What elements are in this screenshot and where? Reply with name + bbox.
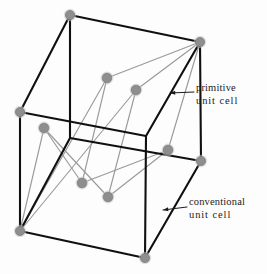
point-back-top-right	[195, 37, 204, 46]
conventional-cell-edge	[20, 231, 145, 258]
primitive-cell-edge	[108, 90, 136, 197]
conventional-label-line1: conventional	[189, 196, 245, 209]
conventional-cell-edge	[20, 138, 70, 231]
primitive-cell-edge	[136, 42, 200, 90]
point-interior-c	[39, 123, 49, 133]
point-front-bottom-left	[15, 226, 24, 235]
point-interior-a	[102, 73, 112, 83]
primitive-cell-edge	[20, 90, 136, 231]
primitive-cell-edge	[108, 150, 168, 197]
point-back-top-left	[65, 10, 74, 19]
point-front-bottom-right	[140, 253, 149, 262]
point-interior-bc	[103, 192, 113, 202]
primitive-cell-edge	[82, 150, 168, 183]
primitive-unit-cell-label: primitive unit cell	[196, 82, 238, 107]
conventional-unit-cell-wireframe	[20, 15, 201, 258]
lattice-diagram	[0, 0, 267, 274]
point-back-bottom-right	[196, 156, 205, 165]
conventional-cell-edge	[70, 15, 200, 42]
primitive-label-line2: unit cell	[196, 95, 238, 108]
point-interior-abc	[163, 145, 173, 155]
primitive-label-line1: primitive	[196, 82, 238, 95]
primitive-cell-edge	[107, 42, 200, 78]
conventional-label-line2: unit cell	[189, 209, 245, 222]
figure-container: primitive unit cell conventional unit ce…	[0, 0, 267, 274]
conventional-unit-cell-arrowhead-icon	[163, 207, 168, 211]
point-interior-b	[131, 85, 141, 95]
conventional-cell-edge	[146, 42, 200, 136]
conventional-cell-edge	[145, 136, 146, 258]
point-interior-ac	[77, 178, 87, 188]
conventional-cell-edge	[20, 15, 70, 112]
conventional-unit-cell-label: conventional unit cell	[189, 196, 245, 221]
lattice-point-group	[14, 9, 207, 264]
point-front-top-left	[15, 107, 24, 116]
